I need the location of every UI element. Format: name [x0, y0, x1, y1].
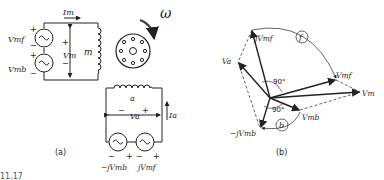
- label-phasor-neg-jvmb: −jVmb: [230, 129, 256, 138]
- src2-minus: −: [136, 152, 143, 161]
- label-va: Va: [130, 112, 140, 121]
- label-jvmf: jVmf: [136, 163, 157, 172]
- label-omega: ω: [160, 5, 172, 21]
- vmf-plus: +: [30, 25, 37, 34]
- src1-plus: +: [126, 152, 133, 161]
- label-phasor-vm: Vm: [362, 89, 375, 98]
- label-phasor-jvmf: jVmf: [253, 34, 274, 43]
- rotation-arrow-icon: [140, 20, 154, 38]
- winding-m: [98, 28, 101, 74]
- label-neg-jvmb: −jVmb: [101, 163, 127, 172]
- label-f: f: [298, 33, 304, 42]
- panel-b-label: (b): [276, 148, 287, 157]
- va-minus: −: [118, 106, 125, 115]
- va-plus: +: [142, 106, 149, 115]
- panel-a-label: (a): [55, 148, 66, 157]
- label-angle-lower: 90°: [272, 106, 284, 114]
- label-angle-upper: 90°: [273, 78, 285, 86]
- vm-minus: −: [62, 59, 69, 68]
- figure-canvas: Im Vmf Vmb + − + − + Vm − m ω a − Va: [0, 0, 384, 180]
- label-phasor-vmb: Vmb: [302, 113, 320, 122]
- label-vmb: Vmb: [8, 65, 26, 74]
- phasor-neg-jvmb: [261, 98, 270, 127]
- label-im: Im: [62, 8, 74, 17]
- label-phasor-va: Va: [222, 57, 231, 66]
- label-a: a: [130, 94, 135, 103]
- label-phasor-vmf: Vmf: [336, 71, 353, 80]
- src1-minus: −: [108, 152, 115, 161]
- label-m: m: [84, 47, 93, 57]
- label-ia: Ia: [168, 111, 177, 120]
- rotor: [116, 34, 150, 68]
- winding-a: [114, 85, 152, 88]
- vmf-minus: −: [30, 41, 37, 50]
- label-b: b: [279, 121, 284, 130]
- arc-f-marker: [296, 31, 308, 43]
- caption-fragment: 11.17: [0, 172, 23, 180]
- src2-plus: +: [153, 152, 160, 161]
- vmb-minus: −: [30, 69, 37, 78]
- vmb-plus: +: [30, 51, 37, 60]
- label-vmf: Vmf: [8, 35, 26, 44]
- vm-plus: +: [62, 38, 69, 47]
